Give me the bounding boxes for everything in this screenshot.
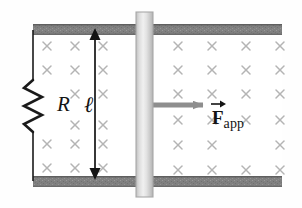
sliding-bar[interactable]	[136, 12, 153, 197]
vector-arrow-icon	[211, 99, 226, 108]
applied-force-label: F app	[212, 108, 244, 131]
diagram-canvas	[0, 0, 302, 208]
length-label: ℓ	[84, 94, 93, 116]
rail-top	[33, 24, 282, 35]
force-symbol-text: F	[212, 107, 224, 128]
resistance-label: R	[57, 94, 70, 115]
physics-diagram-magnetic-induction: R ℓ F app	[0, 0, 302, 208]
rail-bottom	[33, 176, 282, 187]
force-subscript-text: app	[224, 116, 245, 131]
force-vector-symbol: F	[212, 108, 224, 127]
